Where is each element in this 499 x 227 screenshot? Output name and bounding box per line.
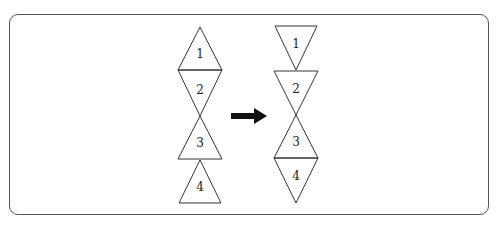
left-label-1: 1 <box>196 47 204 61</box>
right-arrow-icon <box>231 108 267 124</box>
right-label-4: 4 <box>292 169 300 183</box>
left-label-3: 3 <box>196 136 204 150</box>
left-label-2: 2 <box>196 83 204 97</box>
right-label-3: 3 <box>292 135 300 149</box>
right-label-1: 1 <box>292 37 300 51</box>
left-label-4: 4 <box>196 180 204 194</box>
right-label-2: 2 <box>292 82 300 96</box>
triangle-transformation-diagram: 1 2 3 4 1 2 3 4 <box>0 0 499 227</box>
